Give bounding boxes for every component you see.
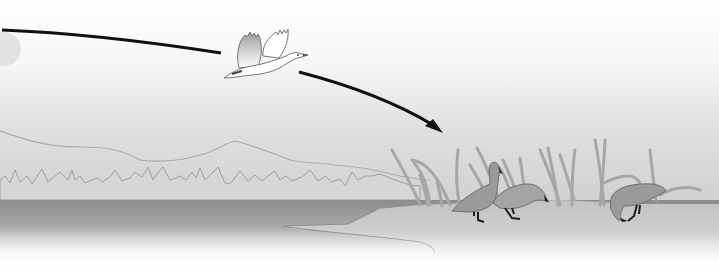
ground-fade (0, 230, 719, 272)
goose-migration-diagram (0, 0, 719, 272)
